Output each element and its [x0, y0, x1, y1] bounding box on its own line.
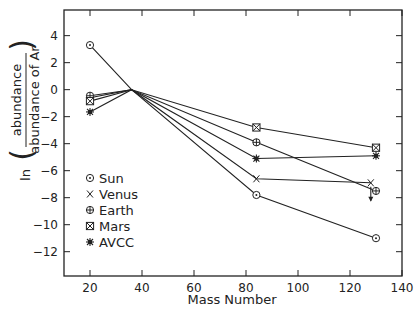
- chart-canvas: 20406080100120140420−2−4−6−8−10−12 SunVe…: [0, 0, 416, 315]
- legend: SunVenusEarthMarsAVCC: [86, 171, 138, 250]
- x-axis-title: Mass Number: [187, 292, 277, 307]
- series-line-avcc: [90, 90, 376, 159]
- y-tick-label: −8: [40, 191, 58, 205]
- circle-dot-marker-icon: [86, 174, 93, 181]
- y-tick-label: 2: [50, 56, 58, 70]
- y-tick-label: −4: [40, 137, 58, 151]
- y-tick-label: 4: [50, 29, 58, 43]
- circle-dot-marker-icon: [372, 235, 379, 242]
- y-axis-prefix: ln: [18, 169, 33, 181]
- series-line-venus: [90, 90, 371, 183]
- asterisk-marker-icon: [86, 238, 94, 246]
- square-x-marker-icon: [253, 124, 260, 131]
- circle-plus-marker-icon: [253, 139, 260, 146]
- x-tick-label: 100: [287, 281, 310, 295]
- square-x-marker-icon: [372, 144, 379, 151]
- legend-label: Mars: [99, 219, 131, 234]
- y-axis-numerator: abundance: [9, 64, 24, 136]
- x-tick-label: 140: [391, 281, 414, 295]
- asterisk-marker-icon: [372, 152, 380, 160]
- legend-label: Sun: [99, 171, 124, 186]
- y-axis-paren-close: ): [4, 39, 39, 51]
- x-tick-label: 40: [134, 281, 149, 295]
- legend-item-avcc: AVCC: [86, 235, 134, 250]
- y-axis-title: ln ( abundance abundance of Ar ): [4, 39, 42, 181]
- x-marker-icon: [87, 191, 93, 198]
- y-tick-label: −10: [33, 218, 58, 232]
- square-x-marker-icon: [86, 98, 93, 105]
- legend-item-earth: Earth: [86, 203, 133, 218]
- asterisk-marker-icon: [86, 108, 94, 116]
- x-tick-label: 20: [82, 281, 97, 295]
- circle-dot-marker-icon: [253, 191, 260, 198]
- circle-dot-marker-icon: [86, 42, 93, 49]
- legend-item-venus: Venus: [87, 187, 138, 202]
- asterisk-marker-icon: [252, 155, 260, 163]
- circle-plus-marker-icon: [86, 206, 93, 213]
- square-x-marker-icon: [86, 222, 93, 229]
- circle-plus-marker-icon: [372, 187, 379, 194]
- y-tick-label: −2: [40, 110, 58, 124]
- legend-label: Venus: [99, 187, 138, 202]
- axis-ticks: 20406080100120140420−2−4−6−8−10−12: [33, 10, 414, 295]
- abundance-chart: 20406080100120140420−2−4−6−8−10−12 SunVe…: [0, 0, 416, 315]
- legend-label: Earth: [99, 203, 134, 218]
- x-tick-label: 120: [339, 281, 362, 295]
- legend-item-mars: Mars: [86, 219, 130, 234]
- y-tick-label: −6: [40, 164, 58, 178]
- series-line-mars: [90, 90, 376, 148]
- legend-label: AVCC: [99, 235, 134, 250]
- legend-item-sun: Sun: [86, 171, 123, 186]
- y-tick-label: 0: [50, 83, 58, 97]
- y-axis-denominator: abundance of Ar: [27, 46, 42, 154]
- arrow-head-icon: [368, 197, 373, 202]
- y-tick-label: −12: [33, 245, 58, 259]
